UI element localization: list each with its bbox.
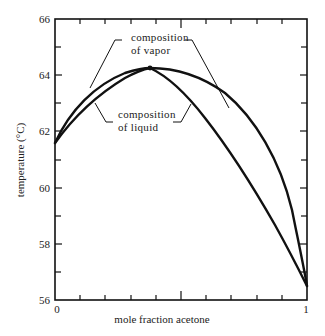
y-axis-right-ticks bbox=[300, 47, 307, 272]
y-axis-label: temperature (°C) bbox=[14, 122, 27, 197]
phase-diagram-chart: 66 64 62 60 58 56 0 1 mole fraction acet… bbox=[0, 0, 325, 336]
x-axis-label: mole fraction acetone bbox=[114, 313, 209, 325]
vapor-annotation-line1: composition bbox=[131, 31, 189, 43]
x-tick-1: 1 bbox=[303, 303, 309, 315]
x-axis-bottom-ticks bbox=[80, 291, 282, 300]
y-tick-60: 60 bbox=[39, 182, 51, 194]
y-tick-62: 62 bbox=[39, 125, 50, 137]
vapor-leader-left bbox=[90, 40, 122, 88]
y-tick-58: 58 bbox=[39, 238, 51, 250]
y-axis-left-ticks bbox=[55, 47, 62, 272]
vapor-annotation-line2: of vapor bbox=[131, 44, 170, 56]
liquid-annotation-line2: of liquid bbox=[118, 121, 158, 133]
y-tick-64: 64 bbox=[39, 69, 51, 81]
y-tick-66: 66 bbox=[39, 13, 51, 25]
azeotrope-point bbox=[148, 66, 153, 71]
liquid-curve bbox=[55, 68, 307, 286]
x-tick-0: 0 bbox=[54, 303, 60, 315]
plot-frame bbox=[55, 19, 307, 300]
y-tick-56: 56 bbox=[39, 294, 51, 306]
x-axis-top-ticks bbox=[80, 19, 282, 28]
liquid-annotation-line1: composition bbox=[118, 108, 176, 120]
liquid-leader-left bbox=[95, 103, 113, 122]
